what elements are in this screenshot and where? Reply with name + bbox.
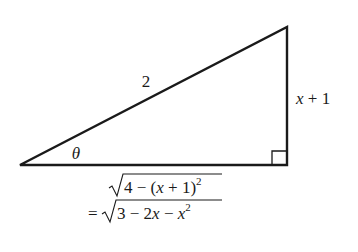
adjacent-label-line1: 4 − (x + 1)2 — [109, 174, 222, 197]
hypotenuse-label: 2 — [142, 72, 151, 91]
svg-text:4 − (x + 1)2: 4 − (x + 1)2 — [124, 175, 202, 197]
right-triangle-diagram: 2 x + 1 θ 4 − (x + 1)2 = 3 − 2x − x2 — [0, 0, 358, 252]
opposite-label: x + 1 — [295, 89, 330, 108]
right-angle-marker — [272, 151, 287, 165]
angle-theta-label: θ — [72, 144, 80, 163]
adjacent-label-line2: = 3 − 2x − x2 — [88, 200, 222, 223]
svg-text:=: = — [88, 204, 98, 223]
triangle — [20, 27, 287, 165]
svg-text:3 − 2x − x2: 3 − 2x − x2 — [117, 201, 191, 223]
